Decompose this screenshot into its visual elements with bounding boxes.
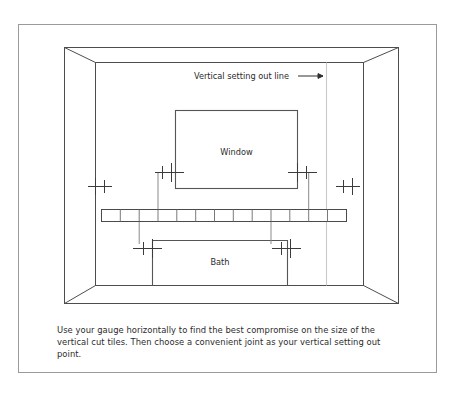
figure-caption: Use your gauge horizontally to find the … — [57, 324, 387, 361]
room-back-wall — [96, 63, 364, 286]
crosshair-window-right — [288, 163, 317, 182]
crosshair-bath-left — [133, 239, 162, 258]
figure-root: Vertical setting out line Window Bath — [0, 0, 455, 397]
setting-out-line-arrow-head — [318, 74, 323, 79]
vertical-setting-out-line-label: Vertical setting out line — [194, 71, 289, 81]
bath-label: Bath — [210, 257, 229, 267]
perspective-line-bottom-left — [65, 286, 96, 304]
crosshair-bath-right — [272, 239, 301, 258]
perspective-line-top-left — [65, 48, 96, 63]
perspective-line-top-right — [364, 48, 399, 63]
tile-gauge-strip — [102, 210, 347, 222]
room-outer-wall — [65, 48, 399, 304]
alignment-ticks — [139, 173, 309, 244]
crosshair-wall-right — [336, 178, 360, 195]
window-label: Window — [220, 147, 253, 157]
crosshair-wall-left — [88, 178, 112, 195]
perspective-line-bottom-right — [364, 286, 399, 304]
crosshair-window-left — [155, 163, 184, 182]
